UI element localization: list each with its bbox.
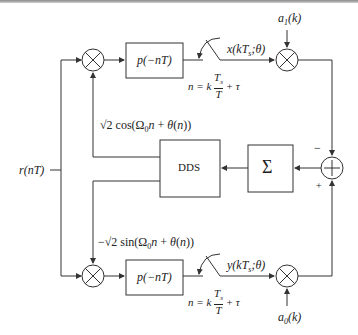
sin-carrier-label: −√2 sin(Ω0n + θ(n)) [98, 236, 194, 251]
top-mixer-multiplier-icon [82, 49, 104, 71]
top-symbol-multiplier-icon [276, 49, 298, 71]
top-sampler-output-label: x(kTs;θ) [227, 43, 265, 58]
top-sampler-switch [206, 40, 220, 60]
accumulator-label: Σ [262, 158, 272, 176]
summing-junction-icon [321, 157, 343, 179]
bottom-sampler-output-label: y(kTs;θ) [227, 259, 265, 274]
minus-sign: − [314, 142, 321, 154]
top-symbol-input-label: a1(k) [278, 12, 301, 27]
bottom-sampling-rule: n = k Ts T + τ [188, 288, 240, 316]
dds-label: DDS [178, 162, 200, 173]
bottom-sampler-switch [206, 256, 220, 276]
cos-carrier-label: √2 cos(Ω0n + θ(n)) [100, 119, 191, 134]
top-filter-label: p(−nT) [137, 54, 172, 66]
input-label: r(nT) [19, 164, 44, 176]
bottom-symbol-multiplier-icon [276, 265, 298, 287]
cos-carrier-line [93, 73, 160, 157]
bottom-filter-label: p(−nT) [137, 271, 172, 283]
bottom-symbol-input-label: a0(k) [278, 311, 301, 326]
bottom-mixer-multiplier-icon [82, 265, 104, 287]
plus-sign: + [316, 181, 322, 191]
top-sampling-rule: n = k Ts T + τ [188, 72, 240, 100]
